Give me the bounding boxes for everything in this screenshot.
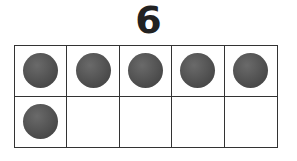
ten-frame-cell (15, 46, 67, 97)
ten-frame-cell (67, 46, 119, 97)
counter-dot-icon (23, 53, 58, 88)
ten-frame-cell (172, 46, 224, 97)
ten-frame-cell (120, 46, 172, 97)
ten-frame-cell (172, 97, 224, 148)
ten-frame-cell (15, 97, 67, 148)
ten-frame (14, 45, 278, 148)
ten-frame-cell (225, 97, 277, 148)
ten-frame-cell (225, 46, 277, 97)
counter-dot-icon (23, 104, 58, 139)
counter-dot-icon (76, 53, 111, 88)
number-title: 6 (0, 0, 297, 40)
counter-dot-icon (180, 53, 215, 88)
counter-dot-icon (128, 53, 163, 88)
counter-dot-icon (233, 53, 268, 88)
ten-frame-cell (120, 97, 172, 148)
ten-frame-cell (67, 97, 119, 148)
